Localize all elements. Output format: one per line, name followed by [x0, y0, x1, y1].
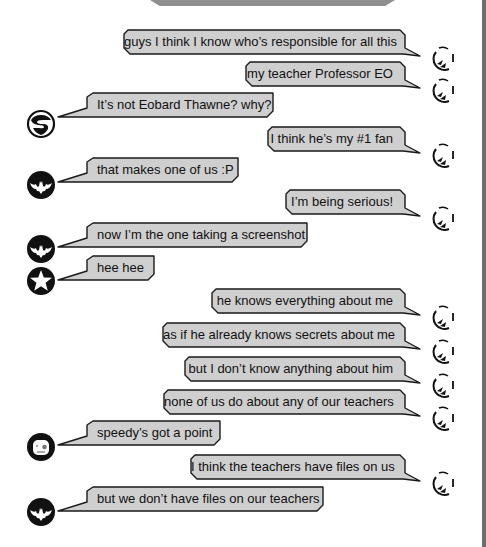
message-text: but we don’t have files on our teachers: [82, 487, 323, 511]
batman-icon: [26, 170, 56, 200]
batman-icon: [26, 234, 56, 264]
message-text: guys I think I know who’s responsible fo…: [124, 30, 405, 54]
message-text: speedy’s got a point: [82, 421, 220, 445]
superman-icon: [26, 109, 56, 139]
message-text: he knows everything about me: [212, 289, 405, 313]
message-text: hee hee: [82, 256, 154, 280]
flash-icon: [428, 302, 458, 332]
message-text: none of us do about any of our teachers: [164, 390, 405, 414]
incoming-message-bubble: but we don’t have files on our teachers: [82, 487, 323, 511]
robin-icon: [26, 432, 56, 462]
star-icon: [26, 266, 56, 296]
message-text: I’m being serious!: [286, 190, 405, 214]
incoming-message-bubble: hee hee: [82, 256, 154, 280]
message-text: I think he’s my #1 fan: [268, 127, 405, 151]
message-text: now I’m the one taking a screenshot: [82, 223, 307, 247]
flash-icon: [428, 43, 458, 73]
message-text: that makes one of us :P: [82, 158, 238, 182]
message-text: It’s not Eobard Thawne? why?: [82, 93, 273, 117]
flash-icon: [428, 203, 458, 233]
outgoing-message-bubble: my teacher Professor EO: [246, 62, 405, 86]
message-text: but I don’t know anything about him: [185, 357, 405, 381]
incoming-message-bubble: It’s not Eobard Thawne? why?: [82, 93, 273, 117]
flash-icon: [428, 468, 458, 498]
outgoing-message-bubble: I think the teachers have files on us: [191, 455, 405, 479]
outgoing-message-bubble: but I don’t know anything about him: [185, 357, 405, 381]
message-text: my teacher Professor EO: [246, 62, 405, 86]
message-text: as if he already knows secrets about me: [163, 323, 405, 347]
message-text: I think the teachers have files on us: [191, 455, 405, 479]
batman-icon: [26, 497, 56, 527]
incoming-message-bubble: now I’m the one taking a screenshot: [82, 223, 307, 247]
flash-icon: [428, 75, 458, 105]
outgoing-message-bubble: I think he’s my #1 fan: [268, 127, 405, 151]
flash-icon: [428, 140, 458, 170]
flash-icon: [428, 403, 458, 433]
outgoing-message-bubble: guys I think I know who’s responsible fo…: [124, 30, 405, 54]
flash-icon: [428, 336, 458, 366]
outgoing-message-bubble: I’m being serious!: [286, 190, 405, 214]
flash-icon: [428, 370, 458, 400]
incoming-message-bubble: speedy’s got a point: [82, 421, 220, 445]
window-right-border: [482, 0, 486, 547]
incoming-message-bubble: that makes one of us :P: [82, 158, 238, 182]
top-banner: [150, 0, 395, 6]
outgoing-message-bubble: as if he already knows secrets about me: [163, 323, 405, 347]
outgoing-message-bubble: he knows everything about me: [212, 289, 405, 313]
outgoing-message-bubble: none of us do about any of our teachers: [164, 390, 405, 414]
